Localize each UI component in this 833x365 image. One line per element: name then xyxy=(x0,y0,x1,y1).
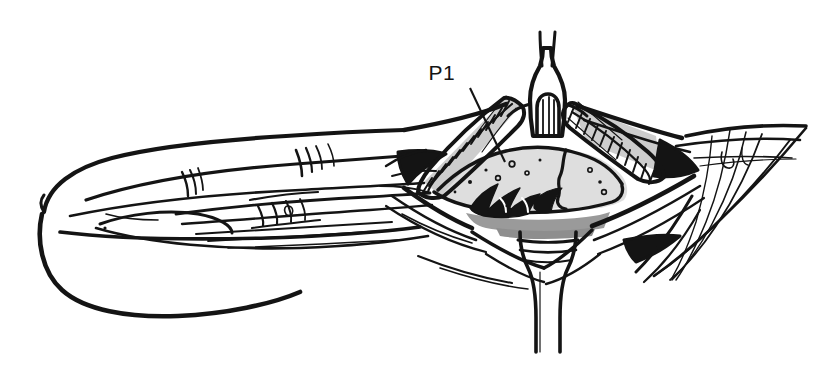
surgical-figure: P1 xyxy=(0,0,833,365)
figure-illustration: P1 xyxy=(0,0,833,365)
p1-label: P1 xyxy=(429,61,456,84)
